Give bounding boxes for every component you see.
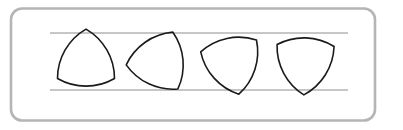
constant-width-shapes-figure (0, 0, 403, 130)
rounded-frame (11, 9, 375, 121)
figure-container (0, 0, 403, 130)
